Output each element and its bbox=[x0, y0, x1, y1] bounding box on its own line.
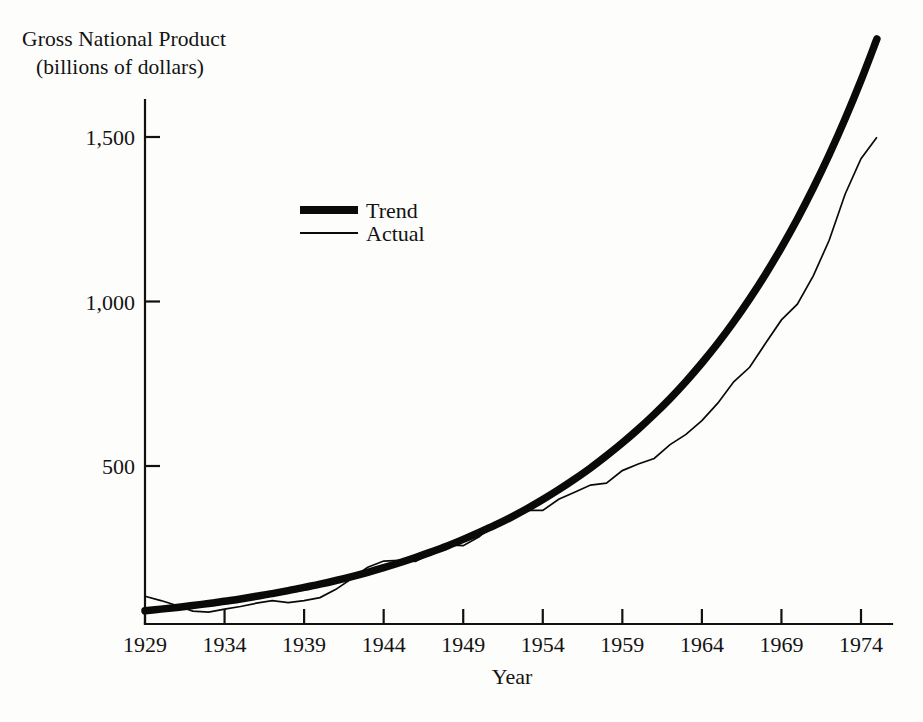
series-line-actual bbox=[145, 137, 877, 612]
x-axis-tick-labels: 1929193419391944194919541959196419691974 bbox=[123, 632, 883, 657]
y-axis-ticks bbox=[145, 137, 160, 466]
x-tick-label-1959: 1959 bbox=[600, 632, 644, 657]
x-tick-label-1969: 1969 bbox=[759, 632, 803, 657]
x-tick-label-1939: 1939 bbox=[282, 632, 326, 657]
chart-figure: Gross National Product (billions of doll… bbox=[0, 0, 923, 722]
y-tick-label-500: 500 bbox=[102, 454, 135, 479]
legend-label-actual: Actual bbox=[366, 221, 425, 246]
x-tick-label-1949: 1949 bbox=[441, 632, 485, 657]
x-tick-label-1934: 1934 bbox=[203, 632, 247, 657]
x-tick-label-1964: 1964 bbox=[680, 632, 724, 657]
chart-legend: Trend Actual bbox=[300, 198, 425, 246]
y-tick-label-1500: 1,500 bbox=[86, 125, 136, 150]
x-tick-label-1974: 1974 bbox=[839, 632, 883, 657]
chart-plot-area: 5001,0001,500 19291934193919441949195419… bbox=[0, 0, 923, 722]
x-tick-label-1944: 1944 bbox=[362, 632, 406, 657]
y-axis-tick-labels: 5001,0001,500 bbox=[86, 125, 136, 479]
x-axis-ticks bbox=[145, 609, 861, 624]
legend-label-trend: Trend bbox=[366, 198, 418, 223]
series-line-trend bbox=[145, 39, 877, 611]
x-axis-title: Year bbox=[492, 664, 533, 689]
x-tick-label-1929: 1929 bbox=[123, 632, 167, 657]
x-tick-label-1954: 1954 bbox=[521, 632, 565, 657]
y-tick-label-1000: 1,000 bbox=[86, 290, 136, 315]
